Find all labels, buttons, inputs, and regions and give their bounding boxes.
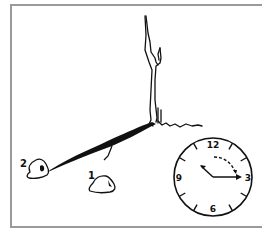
rock-1-label: 1 [88,170,95,181]
tree-shadow [48,122,156,172]
clock-icon: 12 3 6 9 [174,138,252,216]
clock-numeral-12: 12 [207,140,220,150]
clock-numeral-6: 6 [210,204,216,214]
clock-numeral-3: 3 [245,173,251,183]
clock-numeral-9: 9 [176,173,182,183]
diagram-canvas: 2 1 12 3 6 9 [0,0,265,232]
tree-icon [145,16,202,127]
rock-2-label: 2 [20,158,27,169]
rock-1: 1 [88,170,115,193]
rock-2: 2 [20,158,49,178]
